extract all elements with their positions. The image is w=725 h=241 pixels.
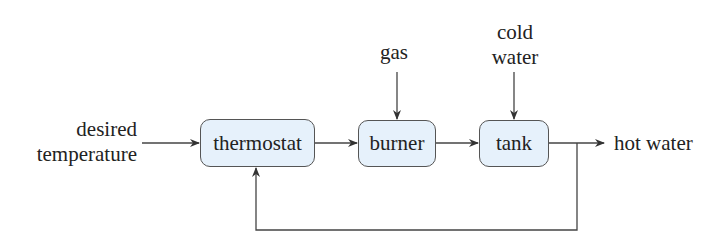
block-tank: tank	[479, 120, 549, 167]
output-label-hot-water: hot water	[614, 131, 693, 156]
block-thermostat-label: thermostat	[213, 131, 302, 156]
coldwater-line1: cold	[488, 20, 542, 45]
input-label-desired-temperature: desired temperature	[37, 117, 137, 167]
block-burner: burner	[358, 120, 436, 167]
block-burner-label: burner	[370, 131, 425, 156]
block-tank-label: tank	[496, 131, 532, 156]
desired-line2: temperature	[37, 142, 137, 167]
coldwater-line2: water	[488, 45, 542, 70]
block-thermostat: thermostat	[200, 119, 315, 167]
input-label-gas: gas	[380, 40, 408, 65]
input-label-cold-water: cold water	[488, 20, 542, 70]
desired-line1: desired	[37, 117, 137, 142]
